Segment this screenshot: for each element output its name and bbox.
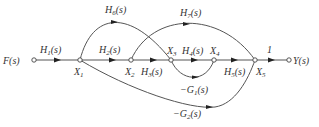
gain-h3-label: H3(s) xyxy=(140,66,163,79)
node-output xyxy=(287,58,291,62)
gain-g2-label: −G2(s) xyxy=(173,108,202,121)
arrow-icon xyxy=(268,58,275,63)
edge-g1 xyxy=(171,60,214,77)
gain-h5-label: H5(s) xyxy=(223,66,246,79)
node-x4-label: X4 xyxy=(209,45,220,58)
node-x2 xyxy=(129,58,133,62)
arrow-icon xyxy=(150,58,157,63)
output-label: Y(s) xyxy=(293,55,310,67)
gain-h6-label: H6(s) xyxy=(104,4,127,17)
gain-h4-label: H4(s) xyxy=(181,45,204,58)
node-x1-label: X1 xyxy=(73,66,84,79)
gain-h1-label: H1(s) xyxy=(39,44,62,57)
arrow-icon xyxy=(206,105,213,109)
node-x5-label: X5 xyxy=(255,66,266,79)
signal-flow-graph: F(s) Y(s) X1 X2 X3 X4 X5 H1(s) H2(s) H3(… xyxy=(0,0,319,127)
gain-h7-label: H7(s) xyxy=(179,7,202,20)
node-x2-label: X2 xyxy=(124,66,135,79)
node-x3 xyxy=(169,58,173,62)
arrow-icon xyxy=(192,76,199,80)
input-label: F(s) xyxy=(2,55,20,67)
node-input xyxy=(32,58,36,62)
node-x4 xyxy=(212,58,216,62)
arrow-icon xyxy=(54,58,61,63)
arrow-icon xyxy=(231,58,238,63)
arrow-icon xyxy=(109,58,116,63)
gain-g1-label: −G1(s) xyxy=(180,84,209,97)
edge-h6 xyxy=(80,22,171,60)
arrow-icon xyxy=(191,58,198,63)
arrow-icon xyxy=(111,20,118,24)
arrow-icon xyxy=(183,22,190,26)
node-x1 xyxy=(78,58,82,62)
gain-h2-label: H2(s) xyxy=(98,44,121,57)
node-x5 xyxy=(253,58,257,62)
gain-unity-label: 1 xyxy=(267,44,272,55)
